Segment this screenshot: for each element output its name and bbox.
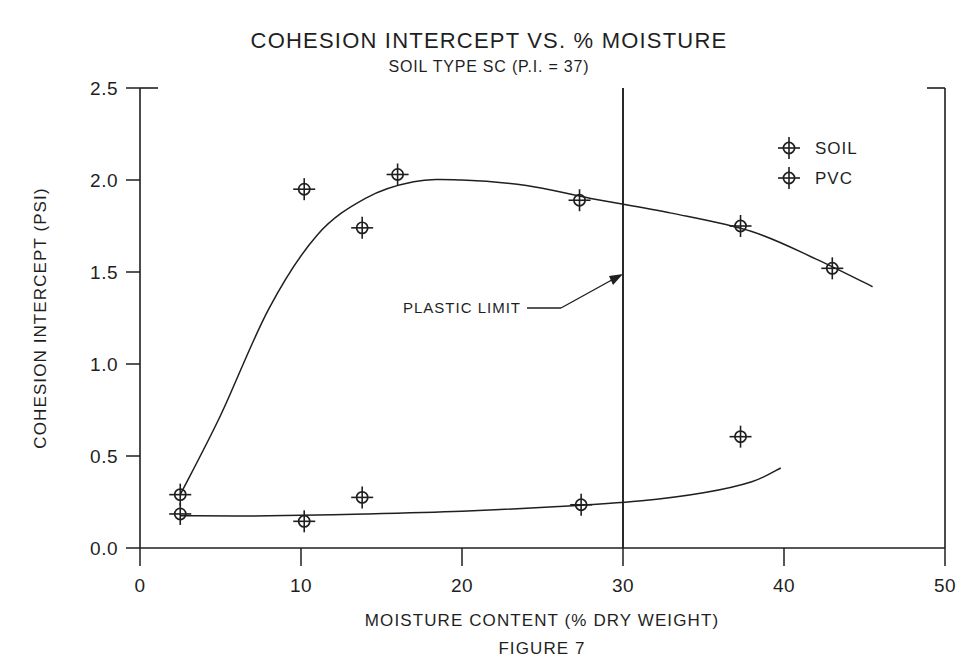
legend-marker-soil-icon <box>778 137 800 159</box>
soil-point-1 <box>293 178 315 200</box>
soil-point-0 <box>169 484 191 506</box>
x-tick-label-3: 30 <box>612 575 634 596</box>
x-tick-label-0: 0 <box>134 575 145 596</box>
y-tick-label-3: 1.5 <box>90 262 118 283</box>
x-tick-label-5: 50 <box>934 575 956 596</box>
legend-marker-soil <box>778 137 800 159</box>
x-axis-title: MOISTURE CONTENT (% DRY WEIGHT) <box>365 611 719 630</box>
plastic-limit-arrowhead <box>609 274 623 285</box>
soil-point-6 <box>821 257 843 279</box>
figure-container: COHESION INTERCEPT VS. % MOISTURE SOIL T… <box>0 0 979 669</box>
pvc-fit-curve <box>180 468 781 516</box>
chart-subtitle: SOIL TYPE SC (P.I. = 37) <box>389 58 590 75</box>
legend-label-soil: SOIL <box>815 139 858 158</box>
x-tick-label-4: 40 <box>773 575 795 596</box>
y-tick-label-1: 0.5 <box>90 446 118 467</box>
y-axis-title: COHESION INTERCEPT (PSI) <box>31 187 50 448</box>
pvc-point-4 <box>730 426 752 448</box>
figure-caption: FIGURE 7 <box>498 639 585 658</box>
legend-label-pvc: PVC <box>815 169 853 188</box>
plastic-limit-label: PLASTIC LIMIT <box>403 299 521 316</box>
legend-marker-pvc <box>778 167 800 189</box>
plastic-limit-leader-diagonal <box>561 276 619 308</box>
pvc-point-0 <box>169 503 191 525</box>
chart-title: COHESION INTERCEPT VS. % MOISTURE <box>251 28 728 53</box>
soil-point-3 <box>387 163 409 185</box>
soil-point-4 <box>569 189 591 211</box>
x-tick-label-1: 10 <box>290 575 312 596</box>
x-axis-ticks: 0 10 20 30 40 50 <box>134 548 956 596</box>
soil-data-points <box>169 163 843 505</box>
legend: SOIL PVC <box>778 137 858 189</box>
soil-point-2 <box>351 217 373 239</box>
y-tick-label-4: 2.0 <box>90 170 118 191</box>
soil-point-5 <box>730 215 752 237</box>
series-curves <box>180 179 872 515</box>
plastic-limit-annotation: PLASTIC LIMIT <box>403 88 623 548</box>
soil-fit-curve <box>180 179 872 494</box>
pvc-point-2 <box>351 486 373 508</box>
cohesion-intercept-chart: COHESION INTERCEPT VS. % MOISTURE SOIL T… <box>0 0 979 669</box>
pvc-point-1 <box>293 510 315 532</box>
pvc-point-3 <box>570 494 592 516</box>
x-tick-label-2: 20 <box>451 575 473 596</box>
y-axis-ticks: 2.5 2.0 1.5 1.0 0.5 0.0 <box>90 78 140 559</box>
y-tick-label-5: 2.5 <box>90 78 118 99</box>
y-tick-label-2: 1.0 <box>90 354 118 375</box>
y-tick-label-0: 0.0 <box>90 538 118 559</box>
legend-marker-pvc-icon <box>778 167 800 189</box>
